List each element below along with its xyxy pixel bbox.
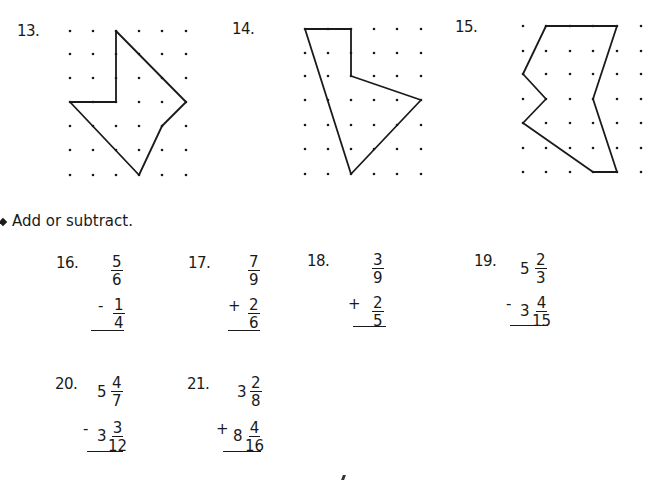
denominator: 3 [536,269,546,286]
problem-number: 19. [474,252,496,270]
problem-number: 18. [307,252,329,270]
numerator: 4 [249,420,261,437]
dot-grid-figures [0,0,658,200]
bottom-fraction: 3 12 [108,420,127,454]
dot-grid-14 [304,28,423,176]
answer-line [87,451,123,452]
bottom-fraction: 4 15 [532,295,551,329]
page-mark [341,475,346,480]
whole-number: 3 [237,383,247,401]
whole-number: 8 [233,427,243,445]
top-fraction: 2 3 [535,252,547,286]
operator: - [83,420,88,438]
instruction-text: Add or subtract. [12,212,133,230]
denominator: 6 [249,314,259,331]
top-fraction: 4 7 [111,375,123,409]
top-fraction: 2 8 [250,375,262,409]
answer-line [510,325,548,326]
answer-line [228,330,260,331]
numerator: 3 [372,252,384,269]
answer-area[interactable] [225,334,265,356]
dot-grid-13 [69,30,188,177]
dot-grid-15 [522,25,643,174]
operator: + [228,297,241,315]
numerator: 7 [248,254,260,271]
polygon-14 [305,29,421,174]
top-fraction: 5 6 [111,254,123,288]
numerator: 5 [111,254,123,271]
whole-number: 5 [97,383,107,401]
numerator: 3 [112,420,124,437]
numerator: 2 [248,297,260,314]
operator: - [98,297,103,315]
denominator: 9 [373,269,383,286]
answer-area[interactable] [88,334,128,356]
answer-line [353,326,386,327]
answer-line [91,330,124,331]
bottom-fraction: 4 16 [245,420,264,454]
whole-number: 3 [520,302,530,320]
problem-13-number: 13. [17,22,39,40]
answer-line [223,451,261,452]
bottom-fraction: 2 5 [372,295,384,329]
answer-area[interactable] [85,455,125,477]
denominator: 6 [112,271,122,288]
bottom-fraction: 2 6 [248,297,260,331]
numerator: 2 [372,295,384,312]
bottom-fraction: 1 4 [113,297,125,331]
problem-number: 20. [55,375,77,393]
answer-area[interactable] [508,329,548,351]
bullet-icon [0,218,7,226]
numerator: 1 [113,297,125,314]
whole-number: 5 [520,260,530,278]
denominator: 8 [251,392,261,409]
operator: + [348,295,361,313]
operator: - [506,295,511,313]
numerator: 4 [111,375,123,392]
top-fraction: 3 9 [372,252,384,286]
numerator: 4 [536,295,548,312]
problem-number: 21. [187,375,209,393]
answer-area[interactable] [350,330,390,352]
denominator: 15 [532,312,551,329]
numerator: 2 [535,252,547,269]
problem-number: 17. [188,254,210,272]
denominator: 4 [114,314,124,331]
top-fraction: 7 9 [248,254,260,288]
whole-number: 3 [97,427,107,445]
polygon-13 [70,31,186,175]
answer-area[interactable] [221,455,261,477]
problem-number: 16. [56,254,78,272]
operator: + [216,420,229,438]
denominator: 9 [249,271,259,288]
problem-15-number: 15. [455,18,477,36]
problem-14-number: 14. [232,20,254,38]
numerator: 2 [250,375,262,392]
denominator: 7 [112,392,122,409]
